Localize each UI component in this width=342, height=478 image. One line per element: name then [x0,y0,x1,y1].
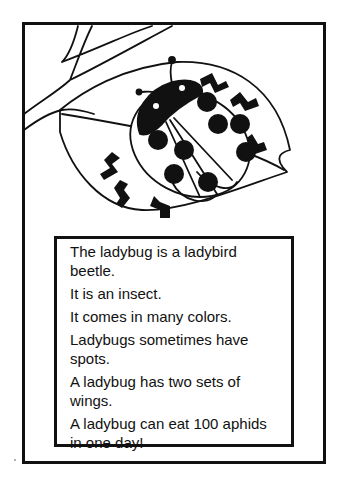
fact-item: It comes in many colors. [70,307,282,326]
facts-box: The ladybug is a ladybird beetle. It is … [54,236,294,447]
fact-item: Ladybugs sometimes have spots. [70,330,282,368]
fact-item: A ladybug has two sets of wings. [70,372,282,410]
ladybug-leaf-illustration [22,22,326,232]
stray-mark [14,459,16,461]
fact-item: A ladybug can eat 100 aphids in one day! [70,414,282,452]
fact-item: It is an insect. [70,284,282,303]
facts-list: The ladybug is a ladybird beetle. It is … [57,239,291,452]
fact-item: The ladybug is a ladybird beetle. [70,242,282,280]
